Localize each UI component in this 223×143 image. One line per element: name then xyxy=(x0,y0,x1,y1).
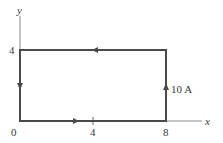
current-loop xyxy=(20,50,166,121)
x-tick-label-8: 8 xyxy=(163,127,169,138)
arrow-left-down xyxy=(17,83,23,90)
arrow-bottom-right xyxy=(73,118,79,124)
current-label: 10 A xyxy=(171,84,192,95)
x-tick-label-0: 0 xyxy=(11,127,17,138)
x-axis-label: x xyxy=(205,116,210,127)
y-axis-label: y xyxy=(17,5,22,16)
arrow-right-up xyxy=(163,83,169,90)
y-tick-label-4: 4 xyxy=(9,45,15,56)
diagram-canvas xyxy=(0,0,223,143)
arrow-top-left xyxy=(92,47,98,53)
x-tick-label-4: 4 xyxy=(90,127,96,138)
